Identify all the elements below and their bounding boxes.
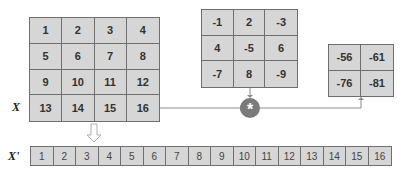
output-cell: -56 — [329, 45, 361, 71]
kernel-cell: -3 — [265, 10, 297, 36]
input-cell: 1 — [30, 18, 62, 44]
kernel-cell: 6 — [265, 36, 297, 62]
input-cell: 6 — [62, 44, 94, 70]
kernel-cell: -1 — [202, 10, 234, 36]
flattened-cell: 1 — [31, 147, 54, 165]
kernel-cell: -9 — [265, 61, 297, 87]
kernel-cell: -7 — [202, 61, 234, 87]
input-cell: 4 — [127, 18, 159, 44]
input-cell: 16 — [127, 95, 159, 121]
kernel-cell: 8 — [234, 61, 266, 87]
flattened-cell: 5 — [121, 147, 144, 165]
flattened-cell: 9 — [211, 147, 234, 165]
input-cell: 11 — [95, 70, 127, 96]
flattened-cell: 10 — [234, 147, 257, 165]
x-label: X — [12, 100, 20, 115]
flattened-cell: 6 — [144, 147, 167, 165]
flattened-cell: 7 — [166, 147, 189, 165]
kernel-matrix: -12-34-56-78-9 — [201, 9, 298, 88]
input-cell: 12 — [127, 70, 159, 96]
output-cell: -76 — [329, 71, 361, 97]
operator-to-output-line — [260, 98, 361, 108]
input-cell: 3 — [95, 18, 127, 44]
input-cell: 7 — [95, 44, 127, 70]
flattened-cell: 4 — [99, 147, 122, 165]
input-matrix: 12345678910111213141516 — [29, 17, 160, 122]
flattened-cell: 12 — [279, 147, 302, 165]
output-cell: -61 — [361, 45, 393, 71]
input-cell: 5 — [30, 44, 62, 70]
output-matrix: -56-61-76-81 — [328, 44, 394, 97]
flattened-vector: 12345678910111213141516 — [30, 146, 392, 166]
flattened-cell: 16 — [369, 147, 392, 165]
input-cell: 15 — [95, 95, 127, 121]
flattened-cell: 2 — [54, 147, 77, 165]
flattened-cell: 15 — [346, 147, 369, 165]
flattened-cell: 8 — [189, 147, 212, 165]
arrowhead-icon — [247, 95, 253, 98]
output-cell: -81 — [361, 71, 393, 97]
flattened-cell: 3 — [76, 147, 99, 165]
input-cell: 8 — [127, 44, 159, 70]
input-cell: 10 — [62, 70, 94, 96]
input-cell: 14 — [62, 95, 94, 121]
arrowhead-icon — [358, 97, 364, 100]
operator-symbol: * — [240, 99, 260, 119]
kernel-cell: 4 — [202, 36, 234, 62]
input-cell: 9 — [30, 70, 62, 96]
kernel-cell: -5 — [234, 36, 266, 62]
flatten-arrow-icon — [87, 124, 101, 142]
flattened-cell: 13 — [301, 147, 324, 165]
flattened-cell: 11 — [256, 147, 279, 165]
kernel-cell: 2 — [234, 10, 266, 36]
input-cell: 13 — [30, 95, 62, 121]
input-cell: 2 — [62, 18, 94, 44]
flattened-cell: 14 — [324, 147, 347, 165]
x-prime-label: X' — [8, 149, 19, 164]
